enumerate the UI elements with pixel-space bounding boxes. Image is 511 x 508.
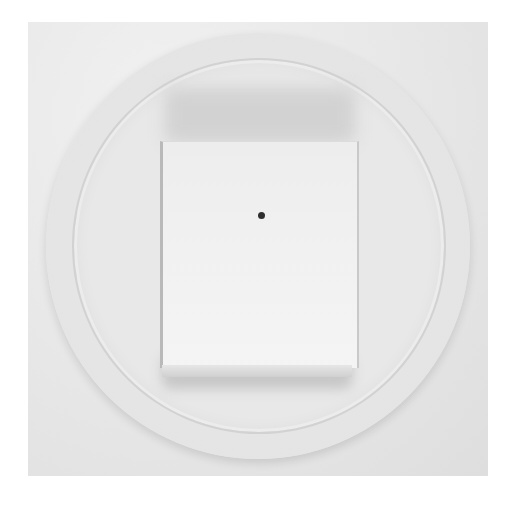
sample-dot bbox=[258, 212, 265, 219]
sample-reflection bbox=[165, 88, 355, 143]
white-square-sample bbox=[160, 141, 359, 368]
sample-bottom-edge bbox=[162, 365, 352, 377]
